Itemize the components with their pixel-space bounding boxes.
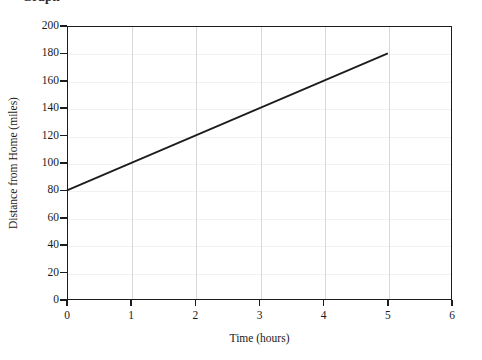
y-axis-tick-label: 80	[15, 184, 59, 196]
y-axis-tick-label: 200	[15, 20, 59, 32]
x-axis-tick-label: 5	[373, 310, 403, 322]
y-axis-tick-label: 140	[15, 102, 59, 114]
y-axis-tick-label: 100	[15, 157, 59, 169]
y-axis-tick-label: 40	[15, 239, 59, 251]
y-axis-tick	[60, 53, 67, 55]
y-axis-tick	[60, 244, 67, 246]
x-axis-tick-label: 2	[180, 310, 210, 322]
x-axis-tick-label: 0	[52, 310, 82, 322]
data-series-line	[67, 53, 388, 190]
x-axis-tick	[195, 300, 196, 306]
line-chart: Distance from Home (miles) Time (hours) …	[0, 0, 482, 360]
y-axis-tick-label: 0	[15, 294, 59, 306]
x-axis-tick-label: 6	[437, 310, 467, 322]
y-axis-tick	[60, 135, 67, 137]
x-axis-tick-label: 4	[309, 310, 339, 322]
y-axis-tick-label: 180	[15, 47, 59, 59]
x-axis-tick	[66, 300, 67, 306]
x-axis-tick-label: 1	[116, 310, 146, 322]
y-axis-tick-label: 120	[15, 130, 59, 142]
y-axis-tick	[60, 162, 67, 164]
y-axis-tick	[60, 80, 67, 82]
x-axis-tick	[323, 300, 324, 306]
x-axis-tick	[259, 300, 260, 306]
y-axis-tick	[60, 190, 67, 192]
y-axis-tick	[60, 25, 67, 27]
y-axis-tick	[60, 272, 67, 274]
x-axis-tick	[451, 300, 452, 306]
x-axis-tick	[387, 300, 388, 306]
y-axis-tick-label: 20	[15, 267, 59, 279]
x-axis-tick-label: 3	[245, 310, 275, 322]
y-axis-tick	[60, 217, 67, 219]
x-axis-tick	[130, 300, 131, 306]
y-axis-tick	[60, 107, 67, 109]
data-series-layer	[0, 0, 482, 360]
y-axis-tick-label: 60	[15, 212, 59, 224]
y-axis-tick-label: 160	[15, 75, 59, 87]
